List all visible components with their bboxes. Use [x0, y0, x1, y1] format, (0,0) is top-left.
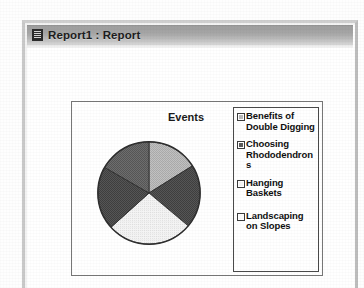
screenshot-root: Report1 : Report Events	[0, 0, 364, 288]
report-client-area: Events	[27, 48, 353, 288]
legend-swatch-icon	[237, 141, 245, 149]
legend-swatch-icon	[237, 213, 245, 221]
pie-slices	[98, 142, 200, 244]
legend-item[interactable]: Landscaping on Slopes	[234, 211, 318, 232]
legend-item[interactable]: Hanging Baskets	[234, 178, 318, 199]
legend-item-label: Benefits of Double Digging	[246, 111, 316, 132]
legend-swatch-icon	[237, 180, 245, 188]
legend-item-label: Choosing Rhododendrons	[246, 139, 316, 171]
legend-item[interactable]: Benefits of Double Digging	[234, 111, 318, 132]
pie-chart[interactable]	[96, 140, 202, 246]
chart-title: Events	[168, 111, 204, 123]
window-title: Report1 : Report	[48, 29, 140, 41]
chart-legend[interactable]: Benefits of Double Digging Choosing Rhod…	[233, 107, 319, 272]
report-document-icon	[32, 29, 43, 41]
legend-item[interactable]: Choosing Rhododendrons	[234, 139, 318, 171]
legend-item-label: Hanging Baskets	[246, 178, 316, 199]
window-titlebar[interactable]: Report1 : Report	[27, 25, 353, 45]
legend-swatch-icon	[237, 113, 245, 121]
report-window: Report1 : Report Events	[22, 20, 358, 288]
chart-object-frame[interactable]: Events	[71, 101, 323, 276]
pie-svg	[96, 140, 202, 246]
legend-item-label: Landscaping on Slopes	[246, 211, 316, 232]
